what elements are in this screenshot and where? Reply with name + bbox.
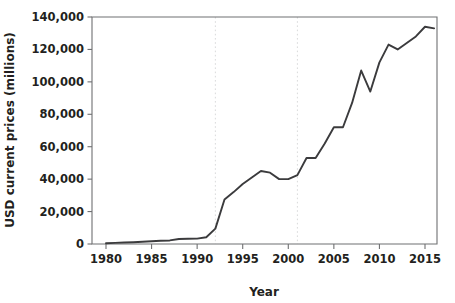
- y-tick-label-3: 60,000: [40, 140, 84, 154]
- x-tick-label-7: 2015: [409, 252, 441, 266]
- y-tick-label-6: 120,000: [32, 42, 84, 56]
- y-tick-label-5: 100,000: [32, 75, 84, 89]
- x-tick-label-1: 1985: [136, 252, 168, 266]
- x-tick-label-4: 2000: [272, 252, 304, 266]
- x-tick-label-2: 1990: [181, 252, 213, 266]
- y-tick-label-2: 40,000: [40, 172, 84, 186]
- chart-page: 020,00040,00060,00080,000100,000120,0001…: [0, 0, 455, 303]
- x-tick-label-0: 1980: [90, 252, 122, 266]
- x-tick-label-6: 2010: [363, 252, 395, 266]
- y-tick-label-0: 0: [76, 237, 84, 251]
- y-axis-ticks: [88, 17, 93, 244]
- x-tick-label-3: 1995: [227, 252, 259, 266]
- y-axis-title: USD current prices (millions): [3, 32, 17, 228]
- y-axis-tick-labels: 020,00040,00060,00080,000100,000120,0001…: [32, 10, 84, 251]
- y-tick-label-7: 140,000: [32, 10, 84, 24]
- y-tick-label-1: 20,000: [40, 205, 84, 219]
- x-axis-tick-labels: 19801985199019952000200520102015: [90, 252, 441, 266]
- line-chart: 020,00040,00060,00080,000100,000120,0001…: [0, 0, 455, 303]
- x-axis-title: Year: [248, 285, 279, 299]
- x-axis-ticks: [106, 244, 425, 249]
- y-tick-label-4: 80,000: [40, 107, 84, 121]
- x-tick-label-5: 2005: [318, 252, 350, 266]
